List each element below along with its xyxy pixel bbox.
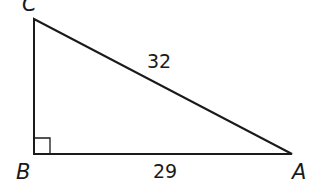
vertex-label-a: A (292, 162, 306, 183)
triangle-abc (34, 19, 292, 154)
vertex-label-c: C (22, 0, 37, 15)
right-angle-marker (34, 138, 50, 154)
side-label-base: 29 (153, 162, 177, 181)
vertex-label-b: B (16, 162, 30, 183)
side-label-hypotenuse: 32 (147, 52, 171, 71)
